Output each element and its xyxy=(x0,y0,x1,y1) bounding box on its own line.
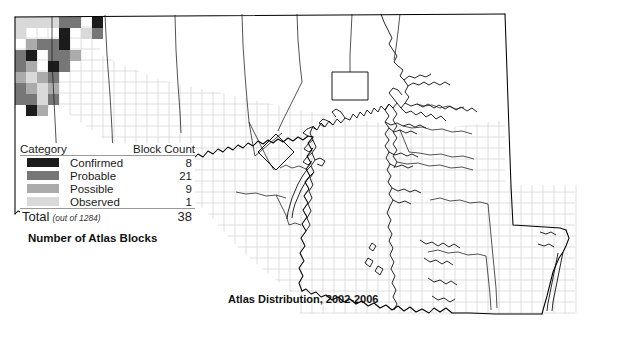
atlas-block xyxy=(59,61,70,72)
atlas-block xyxy=(15,28,26,39)
atlas-block xyxy=(48,39,59,50)
atlas-block xyxy=(59,28,70,39)
legend-total-row: Total(out of 1284) 38 xyxy=(20,209,195,226)
atlas-block xyxy=(48,50,59,61)
legend-header-row: Category Block Count xyxy=(20,143,195,156)
atlas-block xyxy=(59,39,70,50)
legend-total-note: (out of 1284) xyxy=(49,213,100,223)
legend-category-count: 8 xyxy=(128,156,195,170)
legend-color-swatch xyxy=(26,196,60,207)
atlas-block xyxy=(70,17,81,28)
legend-category-label: Observed xyxy=(62,195,128,209)
legend-total-count: 38 xyxy=(128,209,195,226)
map-caption: Atlas Distribution, 2002-2006 xyxy=(228,293,378,305)
atlas-block xyxy=(15,83,26,94)
legend-swatch-cell xyxy=(20,156,62,170)
legend-table: Category Block Count Confirmed8Probable2… xyxy=(20,143,195,225)
legend-color-swatch xyxy=(26,157,60,168)
legend-swatch-cell xyxy=(20,169,62,182)
atlas-block xyxy=(26,105,37,116)
atlas-block xyxy=(59,50,70,61)
atlas-block xyxy=(26,61,37,72)
legend-swatch-cell xyxy=(20,182,62,195)
atlas-block xyxy=(48,72,59,83)
atlas-block xyxy=(48,61,59,72)
legend-row: Possible9 xyxy=(20,182,195,195)
atlas-block xyxy=(37,17,48,28)
atlas-block xyxy=(37,39,48,50)
atlas-block xyxy=(26,17,37,28)
shaded-block-layer xyxy=(15,17,103,116)
atlas-block xyxy=(15,17,26,28)
legend-color-swatch xyxy=(26,170,60,181)
legend-category-label: Confirmed xyxy=(62,156,128,170)
atlas-block xyxy=(15,72,26,83)
atlas-block xyxy=(92,17,103,28)
legend-total-label: Total xyxy=(22,209,49,224)
legend-row: Observed1 xyxy=(20,195,195,209)
atlas-block xyxy=(37,105,48,116)
atlas-block xyxy=(81,28,92,39)
atlas-block xyxy=(15,94,26,105)
legend-caption: Number of Atlas Blocks xyxy=(28,232,157,244)
legend-header-category: Category xyxy=(20,143,128,156)
atlas-block xyxy=(26,39,37,50)
legend-body: Confirmed8Probable21Possible9Observed1 xyxy=(20,156,195,209)
atlas-block xyxy=(37,83,48,94)
atlas-block xyxy=(37,72,48,83)
atlas-block xyxy=(92,28,103,39)
atlas-block xyxy=(26,83,37,94)
atlas-block xyxy=(26,72,37,83)
legend-panel: Category Block Count Confirmed8Probable2… xyxy=(20,143,195,225)
atlas-block xyxy=(26,94,37,105)
atlas-block xyxy=(59,17,70,28)
atlas-block xyxy=(48,17,59,28)
atlas-block xyxy=(70,50,81,61)
atlas-block xyxy=(15,50,26,61)
legend-category-count: 21 xyxy=(128,169,195,182)
legend-category-count: 1 xyxy=(128,195,195,209)
legend-total-label-cell: Total(out of 1284) xyxy=(20,209,128,226)
legend-row: Confirmed8 xyxy=(20,156,195,170)
atlas-block xyxy=(26,50,37,61)
legend-category-count: 9 xyxy=(128,182,195,195)
legend-row: Probable21 xyxy=(20,169,195,182)
legend-category-label: Probable xyxy=(62,169,128,182)
legend-swatch-cell xyxy=(20,195,62,209)
legend-color-swatch xyxy=(26,183,60,194)
atlas-block xyxy=(37,94,48,105)
legend-header-block-count: Block Count xyxy=(128,143,195,156)
legend-category-label: Possible xyxy=(62,182,128,195)
atlas-block xyxy=(15,61,26,72)
